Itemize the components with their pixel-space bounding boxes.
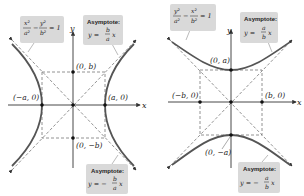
svg-text:x²: x² xyxy=(24,19,30,26)
svg-text:a²: a² xyxy=(174,17,181,24)
x-axis-label: x xyxy=(297,98,302,107)
point-label-right: (b, 0) xyxy=(265,91,285,100)
svg-text:a: a xyxy=(106,35,110,42)
vertex-left xyxy=(40,103,44,107)
co-vertex-right xyxy=(260,100,264,104)
svg-text:x: x xyxy=(112,31,116,39)
co-vertex-bottom xyxy=(71,136,75,140)
svg-text:a: a xyxy=(262,24,266,31)
asymptote-callout-lower: Asymptote: y = − a b x xyxy=(238,155,280,193)
asymptote-callout-lower: Asymptote: y = − b a x xyxy=(86,155,128,194)
point-label-right: (a, 0) xyxy=(108,93,128,102)
y-axis-label: y xyxy=(69,24,75,33)
vertex-right xyxy=(103,103,107,107)
equation-callout: x² a² − y² b² = 1 xyxy=(20,16,64,52)
asymptote-callout-upper: Asymptote: y = a b x xyxy=(240,12,278,52)
point-label-top: (0, a) xyxy=(210,56,230,65)
svg-text:y = −: y = − xyxy=(239,179,259,187)
point-label-bottom: (0, −b) xyxy=(76,141,103,150)
svg-text:−: − xyxy=(183,12,188,20)
svg-text:= 1: = 1 xyxy=(49,24,61,32)
svg-text:Asymptote:: Asymptote: xyxy=(243,166,276,172)
svg-text:y =: y = xyxy=(243,29,255,37)
center-point xyxy=(71,103,75,107)
svg-text:b²: b² xyxy=(40,29,47,36)
y-axis-label: y xyxy=(226,26,232,35)
vertex-top xyxy=(229,68,233,72)
right-hyperbola-panel: x y (0, a) (0, −a) (−b, 0) (b, 0) y² a² … xyxy=(168,4,302,193)
co-vertex-top xyxy=(71,70,75,74)
svg-text:b²: b² xyxy=(191,17,198,24)
svg-text:b: b xyxy=(265,183,269,190)
svg-text:y²: y² xyxy=(39,19,46,27)
point-label-left: (−b, 0) xyxy=(172,91,199,100)
hyperbola-diagrams: x y (0, b) (0, −b) (−a, 0) (a, 0) x² a² … xyxy=(0,0,304,196)
svg-text:= 1: = 1 xyxy=(200,12,212,20)
svg-text:x: x xyxy=(271,179,275,187)
point-label-bottom: (0, −a) xyxy=(205,148,231,157)
svg-text:y²: y² xyxy=(173,7,180,15)
svg-text:b: b xyxy=(262,33,266,40)
equation-callout: y² a² − x² b² = 1 xyxy=(170,4,216,40)
svg-text:y = −: y = − xyxy=(87,180,107,188)
svg-text:y =: y = xyxy=(87,31,99,39)
svg-text:b: b xyxy=(113,175,117,182)
x-axis-label: x xyxy=(142,101,147,110)
center-point xyxy=(229,100,233,104)
svg-text:x: x xyxy=(268,29,272,37)
svg-text:Asymptote:: Asymptote: xyxy=(244,16,277,22)
svg-text:x²: x² xyxy=(191,7,197,14)
vertex-bottom xyxy=(229,133,233,137)
point-label-top: (0, b) xyxy=(76,62,96,71)
svg-text:a²: a² xyxy=(24,29,31,36)
asymptote-callout-upper: Asymptote: y = b a x xyxy=(83,15,123,55)
svg-text:Asymptote:: Asymptote: xyxy=(87,19,120,25)
point-label-left: (−a, 0) xyxy=(13,93,39,102)
svg-text:x: x xyxy=(119,180,123,188)
svg-text:−: − xyxy=(33,24,38,32)
svg-text:b: b xyxy=(106,26,110,33)
left-hyperbola-panel: x y (0, b) (0, −b) (−a, 0) (a, 0) x² a² … xyxy=(8,15,147,194)
svg-text:Asymptote:: Asymptote: xyxy=(91,168,124,174)
co-vertex-left xyxy=(198,100,202,104)
svg-text:a: a xyxy=(113,184,117,191)
svg-text:a: a xyxy=(265,174,269,181)
